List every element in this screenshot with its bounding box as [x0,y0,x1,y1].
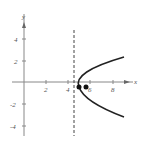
y-tick-label: -2 [10,101,16,109]
y-tick-label: 4 [14,36,18,44]
x-tick-label: 6 [88,86,92,94]
y-tick-label: -4 [10,123,16,131]
x-tick-label: 8 [111,86,115,94]
x-axis-arrow-icon [124,80,130,84]
parabola-chart: y x 2 4 6 8 4 2 -2 -4 [0,0,143,141]
x-axis-label: x [133,78,138,86]
focus-point [84,85,89,90]
x-tick-label: 2 [44,86,48,94]
y-tick-label: 2 [14,58,18,66]
y-axis-label: y [21,13,26,21]
x-tick-label: 4 [66,86,70,94]
y-axis-arrow-icon [22,22,26,28]
vertex-point [77,85,82,90]
